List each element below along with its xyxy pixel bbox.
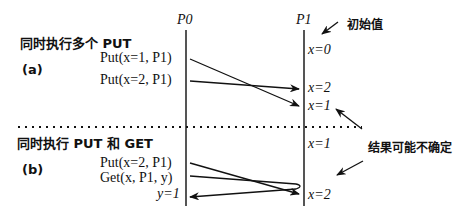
uncertain-arrow-bottom (337, 161, 363, 175)
op-put-x1: Put(x=1, P1) (100, 50, 172, 66)
p1-label: P1 (296, 12, 312, 28)
p1-value-after-put2: x=2 (308, 80, 331, 96)
put-x2-b-arrow (190, 163, 299, 194)
p1-value-after-put1: x=1 (308, 98, 331, 114)
get-result: y=1 (157, 186, 180, 202)
section-b-title: 同时执行 PUT 和 GET (17, 133, 153, 152)
p1-value-initial: x=0 (308, 42, 331, 58)
p1-value-after-b: x=2 (308, 187, 331, 203)
uncertain-result-note: 结果可能不确定 (368, 138, 452, 155)
p0-label: P0 (177, 12, 193, 28)
initial-value-arrow (322, 22, 338, 34)
section-a-label: (a) (22, 62, 43, 77)
op-put-x2: Put(x=2, P1) (100, 72, 172, 88)
op-put-x2-b: Put(x=2, P1) (100, 155, 172, 171)
initial-value-note: 初始值 (347, 15, 383, 32)
op-get: Get(x, P1, y) (100, 170, 172, 186)
p1-value-before-b: x=1 (308, 136, 331, 152)
section-b-label: (b) (22, 162, 43, 177)
